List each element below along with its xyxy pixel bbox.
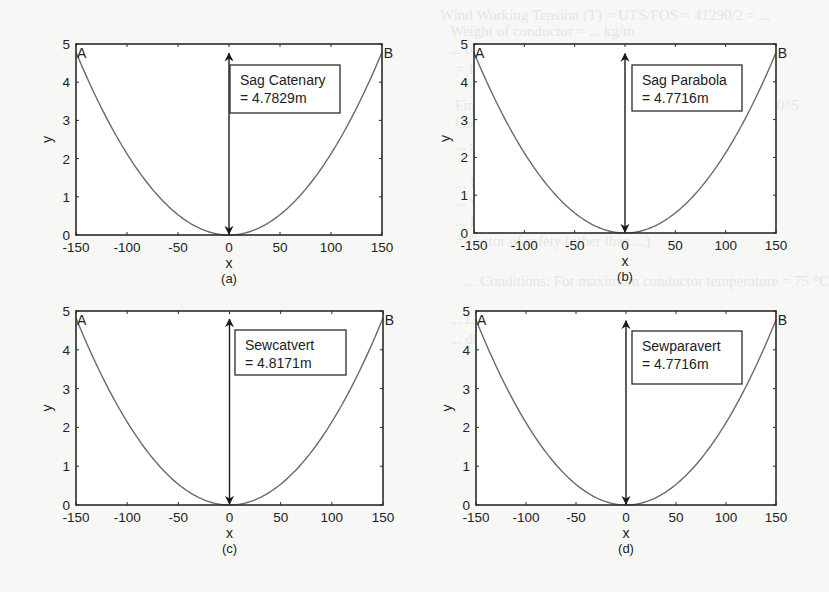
- y-tick-label: 4: [460, 75, 468, 90]
- support-point-label-a: A: [77, 312, 87, 328]
- x-tick-label: -50: [565, 238, 585, 253]
- sag-annotation-title: Sag Parabola: [642, 72, 727, 88]
- y-tick-label: 1: [460, 188, 468, 203]
- x-axis-label: x: [622, 253, 629, 269]
- sag-annotation-title: Sewcatvert: [245, 337, 314, 353]
- y-tick-label: 5: [460, 37, 468, 52]
- plot-panel-c: -150-100-50050100150012345xy(c)ABSewcatv…: [39, 304, 394, 556]
- y-tick-label: 4: [62, 75, 70, 90]
- y-tick-label: 1: [62, 459, 70, 474]
- y-axis-label: y: [39, 136, 55, 143]
- x-tick-label: 50: [273, 510, 288, 525]
- y-tick-label: 0: [62, 498, 70, 513]
- y-tick-label: 3: [62, 382, 70, 397]
- panel-caption: (d): [618, 541, 634, 556]
- sag-annotation-title: Sewparavert: [642, 338, 721, 354]
- x-tick-label: 150: [372, 510, 395, 525]
- plot-panel-d: -150-100-50050100150012345xy(d)ABSewpara…: [439, 304, 787, 556]
- y-tick-label: 1: [62, 190, 70, 205]
- y-tick-label: 1: [462, 459, 470, 474]
- sag-annotation-value: = 4.7829m: [240, 90, 307, 106]
- support-point-label-b: B: [385, 312, 394, 328]
- x-tick-label: -50: [566, 510, 586, 525]
- x-tick-label: -100: [113, 240, 140, 255]
- support-point-label-a: A: [477, 312, 487, 328]
- x-axis-label: x: [623, 525, 630, 541]
- x-tick-label: 50: [668, 510, 683, 525]
- sag-annotation-value: = 4.7716m: [642, 356, 709, 372]
- y-tick-label: 5: [62, 37, 70, 52]
- sag-annotation-value: = 4.7716m: [642, 90, 709, 106]
- x-tick-label: -100: [114, 510, 141, 525]
- x-tick-label: -100: [512, 510, 539, 525]
- panel-caption: (a): [221, 271, 237, 286]
- x-tick-label: 150: [765, 238, 788, 253]
- y-tick-label: 4: [62, 343, 70, 358]
- y-tick-label: 2: [62, 420, 70, 435]
- x-axis-label: x: [226, 525, 233, 541]
- x-axis-label: x: [226, 255, 233, 271]
- y-tick-label: 3: [460, 113, 468, 128]
- y-tick-label: 2: [460, 150, 468, 165]
- sag-annotation-value: = 4.8171m: [245, 355, 312, 371]
- x-tick-label: -50: [169, 510, 189, 525]
- panel-caption: (c): [222, 541, 237, 556]
- y-tick-label: 2: [462, 420, 470, 435]
- x-tick-label: 0: [225, 240, 233, 255]
- x-tick-label: 50: [668, 238, 683, 253]
- panel-caption: (b): [617, 269, 633, 284]
- x-tick-label: 100: [321, 510, 344, 525]
- x-tick-label: 150: [765, 510, 788, 525]
- y-tick-label: 2: [62, 152, 70, 167]
- plot-panel-a: -150-100-50050100150012345xy(a)ABSag Cat…: [39, 37, 393, 286]
- x-tick-label: 150: [371, 240, 394, 255]
- y-axis-label: y: [39, 405, 55, 412]
- y-tick-label: 5: [62, 304, 70, 319]
- support-point-label-a: A: [475, 45, 485, 61]
- x-tick-label: 0: [621, 238, 629, 253]
- x-tick-label: 100: [714, 238, 737, 253]
- y-tick-label: 0: [62, 228, 70, 243]
- y-tick-label: 3: [62, 113, 70, 128]
- support-point-label-b: B: [384, 45, 393, 61]
- sag-annotation-title: Sag Catenary: [240, 72, 326, 88]
- x-tick-label: 50: [272, 240, 287, 255]
- support-point-label-a: A: [77, 45, 87, 61]
- x-tick-label: 0: [622, 510, 630, 525]
- plot-panel-b: -150-100-50050100150012345xy(b)ABSag Par…: [437, 37, 787, 284]
- x-tick-label: -100: [511, 238, 538, 253]
- y-axis-label: y: [439, 405, 455, 412]
- support-point-label-b: B: [778, 312, 787, 328]
- x-tick-label: 100: [320, 240, 343, 255]
- support-point-label-b: B: [778, 45, 787, 61]
- x-tick-label: -50: [168, 240, 188, 255]
- x-tick-label: 0: [226, 510, 234, 525]
- y-tick-label: 0: [462, 498, 470, 513]
- y-tick-label: 4: [462, 343, 470, 358]
- y-tick-label: 5: [462, 304, 470, 319]
- y-tick-label: 3: [462, 382, 470, 397]
- y-tick-label: 0: [460, 226, 468, 241]
- y-axis-label: y: [437, 135, 453, 142]
- x-tick-label: 100: [715, 510, 738, 525]
